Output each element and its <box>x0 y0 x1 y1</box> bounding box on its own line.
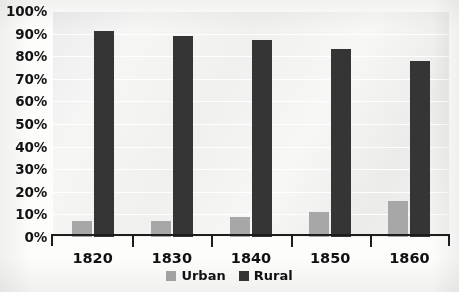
y-tick-label: 70% <box>15 71 47 87</box>
bar-urban-1860 <box>388 201 408 237</box>
y-tick-label: 20% <box>15 184 47 200</box>
legend-swatch-urban-icon <box>166 271 176 281</box>
x-tick-label-1830: 1830 <box>152 250 192 266</box>
legend-entry-urban[interactable]: Urban <box>166 269 225 282</box>
axis-baseline <box>51 234 450 236</box>
bar-chart: 0%10%20%30%40%50%60%70%80%90%100% 182018… <box>0 0 459 292</box>
legend-swatch-rural-icon <box>239 271 249 281</box>
bars-layer <box>53 11 449 237</box>
axis-cap-left <box>51 234 53 246</box>
bar-rural-1820 <box>94 31 114 237</box>
bar-rural-1840 <box>252 40 272 237</box>
chart-legend: UrbanRural <box>0 269 459 282</box>
y-axis: 0%10%20%30%40%50%60%70%80%90%100% <box>0 0 50 292</box>
y-tick-label: 80% <box>15 48 47 64</box>
x-axis-tick <box>291 236 293 247</box>
x-axis-tick <box>132 236 134 247</box>
x-tick-label-1840: 1840 <box>231 250 271 266</box>
x-tick-label-1850: 1850 <box>310 250 350 266</box>
legend-label-rural: Rural <box>254 269 293 282</box>
legend-entry-rural[interactable]: Rural <box>239 269 293 282</box>
y-tick-label: 100% <box>6 3 47 19</box>
x-tick-label-1860: 1860 <box>389 250 429 266</box>
axis-cap-right <box>448 234 450 246</box>
y-tick-label: 0% <box>24 229 47 245</box>
plot-area <box>53 11 449 237</box>
y-tick-label: 50% <box>15 116 47 132</box>
y-tick-label: 30% <box>15 161 47 177</box>
y-tick-label: 40% <box>15 139 47 155</box>
x-axis-tick <box>211 236 213 247</box>
x-tick-label-1820: 1820 <box>72 250 112 266</box>
x-axis-tick <box>370 236 372 247</box>
bar-rural-1830 <box>173 36 193 237</box>
y-tick-label: 60% <box>15 93 47 109</box>
y-tick-label: 90% <box>15 26 47 42</box>
y-tick-label: 10% <box>15 206 47 222</box>
bar-rural-1860 <box>410 61 430 237</box>
legend-label-urban: Urban <box>181 269 225 282</box>
bar-rural-1850 <box>331 49 351 237</box>
